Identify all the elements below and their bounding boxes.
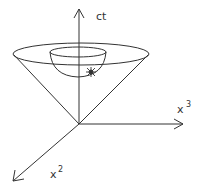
x2-axis-superscript: 2	[58, 165, 63, 174]
x3-axis-label: x	[177, 103, 184, 116]
event-flash-icon	[86, 67, 96, 77]
light-cone-diagram: ct x 3 x 2	[0, 0, 201, 191]
outer-cone-ellipse	[13, 43, 149, 65]
x3-axis-superscript: 3	[186, 100, 191, 109]
ct-axis-label: ct	[96, 10, 107, 23]
x2-axis	[13, 124, 79, 181]
inner-hemisphere-rim	[50, 47, 106, 57]
x2-axis-label: x	[50, 168, 57, 181]
